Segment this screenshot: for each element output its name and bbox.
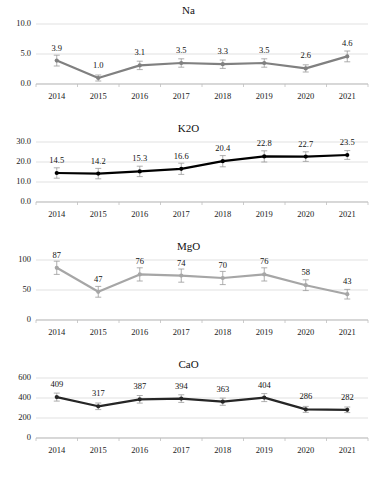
data-label: 3.5 [248, 45, 280, 55]
data-point [179, 397, 183, 401]
x-tick-label: 2014 [36, 327, 78, 337]
data-point [55, 266, 59, 270]
x-tick-label: 2021 [327, 209, 369, 219]
x-tick-label: 2019 [244, 445, 286, 455]
data-label: 404 [248, 380, 280, 390]
data-point [179, 274, 183, 278]
y-tick-label: 0.0 [0, 196, 31, 206]
x-tick-label: 2016 [119, 445, 161, 455]
y-tick-label: 0 [0, 432, 31, 442]
x-tick-label: 2021 [327, 445, 369, 455]
data-label: 87 [41, 250, 73, 260]
data-point [138, 397, 142, 401]
data-label: 14.5 [41, 155, 73, 165]
data-label: 22.8 [248, 138, 280, 148]
data-label: 3.9 [41, 43, 73, 53]
data-point [179, 167, 183, 171]
data-label: 363 [207, 384, 239, 394]
y-tick-label: 200 [0, 412, 31, 422]
x-tick-label: 2015 [78, 91, 120, 101]
data-label: 74 [165, 258, 197, 268]
data-point [96, 290, 100, 294]
data-point [304, 407, 308, 411]
x-tick-label: 2018 [202, 445, 244, 455]
y-tick-label: 0 [0, 314, 31, 324]
x-tick-label: 2014 [36, 445, 78, 455]
data-label: 76 [248, 256, 280, 266]
y-tick-label: 10.0 [0, 18, 31, 28]
x-tick-label: 2019 [244, 91, 286, 101]
data-label: 3.1 [124, 47, 156, 57]
data-point [262, 396, 266, 400]
chart-page: Na0.05.010.02014201520162017201820192020… [0, 0, 377, 483]
data-label: 76 [124, 256, 156, 266]
data-label: 23.5 [331, 137, 363, 147]
data-point [262, 154, 266, 158]
y-tick-label: 100 [0, 254, 31, 264]
data-label: 317 [82, 388, 114, 398]
x-tick-label: 2018 [202, 209, 244, 219]
y-tick-label: 600 [0, 372, 31, 382]
data-label: 15.3 [124, 153, 156, 163]
x-tick-label: 2017 [161, 445, 203, 455]
data-point [96, 76, 100, 80]
data-point [221, 159, 225, 163]
data-point [345, 292, 349, 296]
x-tick-label: 2014 [36, 91, 78, 101]
x-tick-label: 2019 [244, 209, 286, 219]
data-label: 282 [331, 392, 363, 402]
x-tick-label: 2019 [244, 327, 286, 337]
data-label: 20.4 [207, 143, 239, 153]
data-label: 387 [124, 381, 156, 391]
x-tick-label: 2017 [161, 209, 203, 219]
data-point [55, 59, 59, 63]
y-tick-label: 400 [0, 392, 31, 402]
x-tick-label: 2017 [161, 91, 203, 101]
data-label: 70 [207, 260, 239, 270]
chart-plot-cao [0, 358, 377, 476]
x-tick-label: 2015 [78, 209, 120, 219]
data-label: 22.7 [290, 139, 322, 149]
data-point [304, 155, 308, 159]
y-tick-label: 10.0 [0, 176, 31, 186]
x-tick-label: 2016 [119, 209, 161, 219]
data-point [304, 283, 308, 287]
y-tick-label: 5.0 [0, 48, 31, 58]
data-label: 47 [82, 274, 114, 284]
data-label: 16.6 [165, 151, 197, 161]
x-tick-label: 2016 [119, 327, 161, 337]
data-point [262, 61, 266, 65]
data-point [138, 272, 142, 276]
data-label: 3.3 [207, 46, 239, 56]
data-label: 3.5 [165, 45, 197, 55]
data-label: 58 [290, 267, 322, 277]
x-tick-label: 2018 [202, 327, 244, 337]
x-tick-label: 2021 [327, 91, 369, 101]
data-point [221, 62, 225, 66]
data-point [304, 66, 308, 70]
data-label: 409 [41, 379, 73, 389]
x-tick-label: 2015 [78, 327, 120, 337]
x-tick-label: 2020 [285, 445, 327, 455]
data-point [179, 61, 183, 65]
chart-panel-cao: CaO0200400600201420152016201720182019202… [0, 358, 377, 476]
data-label: 2.6 [290, 50, 322, 60]
data-point [138, 169, 142, 173]
y-tick-label: 30.0 [0, 136, 31, 146]
data-point [262, 272, 266, 276]
chart-panel-k2o: K2O0.010.020.030.02014201520162017201820… [0, 122, 377, 240]
data-point [221, 276, 225, 280]
data-point [55, 395, 59, 399]
x-tick-label: 2016 [119, 91, 161, 101]
x-tick-label: 2017 [161, 327, 203, 337]
data-point [55, 171, 59, 175]
data-label: 286 [290, 391, 322, 401]
data-label: 1.0 [82, 60, 114, 70]
data-label: 4.6 [331, 38, 363, 48]
x-tick-label: 2020 [285, 327, 327, 337]
data-label: 394 [165, 381, 197, 391]
chart-panel-na: Na0.05.010.02014201520162017201820192020… [0, 4, 377, 122]
chart-panel-mgo: MgO0501002014201520162017201820192020202… [0, 240, 377, 358]
data-point [221, 400, 225, 404]
x-tick-label: 2018 [202, 91, 244, 101]
